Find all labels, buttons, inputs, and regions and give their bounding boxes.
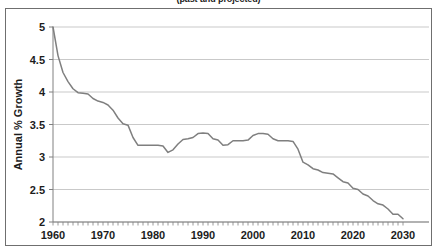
x-tick-label: 1990: [191, 229, 215, 241]
y-tick-label: 4: [39, 86, 46, 98]
y-tick-labels: 22.533.544.55: [30, 21, 46, 228]
x-tick-label: 1980: [141, 229, 165, 241]
y-tick-label: 3: [39, 151, 45, 163]
x-tick-label: 2020: [341, 229, 365, 241]
chart-figure: (past and projected) 22.533.544.55 19601…: [0, 0, 437, 251]
y-tick-label: 2.5: [30, 184, 45, 196]
y-axis-title: Annual % Growth: [12, 78, 24, 170]
x-tick-labels: 19601970198019902000201020202030: [41, 229, 415, 241]
y-tick-label: 4.5: [30, 54, 45, 66]
y-tick-label: 2: [39, 216, 45, 228]
y-tick-label: 3.5: [30, 119, 45, 131]
y-tick-label: 5: [39, 21, 45, 33]
x-tick-label: 2030: [391, 229, 415, 241]
x-tick-label: 2000: [241, 229, 265, 241]
line-chart-plot: 22.533.544.55 19601970198019902000201020…: [0, 0, 437, 251]
x-tick-label: 1960: [41, 229, 65, 241]
gridlines: [53, 27, 429, 222]
x-tick-label: 1970: [91, 229, 115, 241]
y-axis-label: Annual % Growth: [12, 78, 24, 170]
x-tick-label: 2010: [291, 229, 315, 241]
x-minor-ticks: [53, 222, 403, 226]
axis-ticks: [49, 27, 53, 222]
